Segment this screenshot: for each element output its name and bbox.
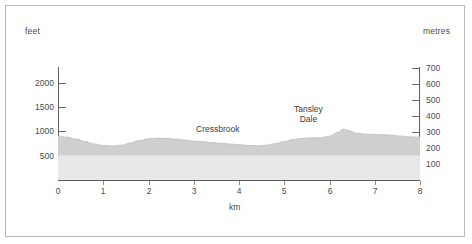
x-axis-tick	[284, 181, 285, 185]
annotation-tansley-line2: Dale	[300, 114, 317, 124]
x-axis-tick	[375, 181, 376, 185]
x-axis-tick-label: 2	[139, 186, 159, 196]
right-axis-tick-label: 200	[426, 143, 440, 153]
x-axis-unit-label: km	[229, 202, 240, 212]
x-axis-tick-label: 3	[184, 186, 204, 196]
x-axis-tick	[149, 181, 150, 185]
x-axis-tick	[194, 181, 195, 185]
right-axis-tick-label: 700	[426, 63, 440, 73]
annotation-tansley-dale: Tansley Dale	[294, 104, 323, 124]
x-axis-tick-label: 4	[229, 186, 249, 196]
x-axis-tick	[103, 181, 104, 185]
x-axis-tick-label: 8	[410, 186, 430, 196]
right-axis-unit-label: metres	[423, 26, 450, 36]
right-axis-tick-label: 500	[426, 95, 440, 105]
x-axis-tick	[239, 181, 240, 185]
annotation-cressbrook-line1: Cressbrook	[196, 124, 239, 134]
left-axis-tick-label: 1000	[20, 126, 54, 136]
left-axis-tick-label: 500	[20, 151, 54, 161]
x-axis-tick-label: 1	[93, 186, 113, 196]
right-axis-tick-label: 400	[426, 111, 440, 121]
x-axis-tick	[330, 181, 331, 185]
left-axis-tick-label: 2000	[20, 78, 54, 88]
x-axis-tick-label: 7	[365, 186, 385, 196]
right-axis-tick-label: 600	[426, 79, 440, 89]
annotation-tansley-line1: Tansley	[294, 104, 323, 114]
right-axis-tick-label: 100	[426, 159, 440, 169]
left-axis-unit-label: feet	[25, 26, 40, 36]
chart-frame: feet metres 200015001000500 700600500400…	[5, 5, 465, 237]
right-axis-tick-label: 300	[426, 127, 440, 137]
x-axis-tick-label: 5	[274, 186, 294, 196]
left-axis-tick-label: 1500	[20, 102, 54, 112]
x-axis-tick-label: 6	[320, 186, 340, 196]
x-axis-tick	[420, 181, 421, 185]
x-axis-tick-label: 0	[48, 186, 68, 196]
annotation-cressbrook: Cressbrook	[196, 124, 239, 134]
